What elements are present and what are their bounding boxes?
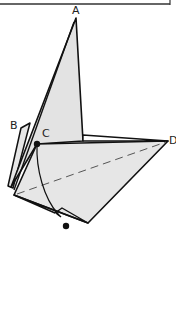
label-d: D	[169, 135, 176, 146]
fold-diagram	[0, 0, 176, 336]
label-c: C	[42, 128, 50, 139]
diagram-canvas: A B C D	[0, 0, 176, 336]
point-c-dot	[34, 141, 40, 147]
label-b: B	[10, 120, 18, 131]
rim-d	[83, 135, 168, 141]
label-a: A	[72, 5, 80, 16]
point-end-dot	[63, 223, 69, 229]
